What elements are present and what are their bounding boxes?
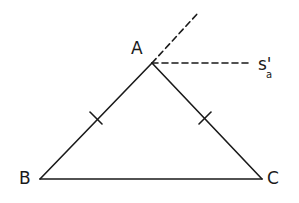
bisector-label-subscript: a (266, 70, 272, 80)
dashed-extension-ba (152, 13, 198, 63)
vertex-label-a: A (131, 40, 143, 57)
diagram-canvas (0, 0, 299, 203)
side-ac (152, 63, 262, 179)
triangle-diagram: A B C s' a (0, 0, 299, 203)
vertex-label-c: C (267, 170, 279, 187)
tick-mark-ab (90, 112, 102, 124)
side-ab (40, 63, 152, 179)
vertex-label-b: B (19, 170, 31, 187)
